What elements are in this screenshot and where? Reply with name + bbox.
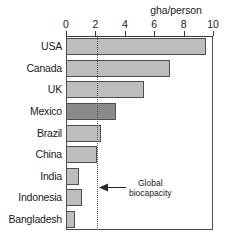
bar-china xyxy=(66,146,97,163)
category-label-indonesia: Indonesia xyxy=(0,192,62,203)
x-axis-unit-label: gha/person xyxy=(130,4,222,16)
bar-mexico xyxy=(66,103,116,120)
annotation-label-line1: Global xyxy=(129,178,172,188)
annotation-label: Global biocapacity xyxy=(129,178,172,198)
bars-container xyxy=(66,36,213,230)
y-axis-category-labels: USACanadaUKMexicoBrazilChinaIndiaIndones… xyxy=(0,36,62,230)
x-tick-label: 6 xyxy=(142,18,166,30)
global-biocapacity-reference-line xyxy=(97,37,98,230)
category-label-canada: Canada xyxy=(0,63,62,74)
x-tick-label: 4 xyxy=(113,18,137,30)
bar-indonesia xyxy=(66,189,82,206)
bar-canada xyxy=(66,60,170,77)
bar-india xyxy=(66,168,79,185)
category-label-bangladesh: Bangladesh xyxy=(0,214,62,225)
x-tick-label: 0 xyxy=(54,18,78,30)
annotation-label-line2: biocapacity xyxy=(129,188,172,198)
ecological-footprint-bar-chart: gha/person 0246810 USACanadaUKMexicoBraz… xyxy=(0,0,227,244)
x-tick-label: 2 xyxy=(83,18,107,30)
bar-bangladesh xyxy=(66,211,75,228)
x-axis-tick-labels: 0246810 xyxy=(0,18,227,31)
category-label-usa: USA xyxy=(0,41,62,52)
category-label-mexico: Mexico xyxy=(0,106,62,117)
category-label-brazil: Brazil xyxy=(0,128,62,139)
left-arrow-icon xyxy=(99,183,127,192)
bar-usa xyxy=(66,38,206,55)
category-label-uk: UK xyxy=(0,84,62,95)
x-tick-label: 8 xyxy=(172,18,196,30)
bar-uk xyxy=(66,81,144,98)
x-tick-label: 10 xyxy=(201,18,225,30)
x-tick-mark xyxy=(213,31,214,36)
category-label-india: India xyxy=(0,171,62,182)
category-label-china: China xyxy=(0,149,62,160)
